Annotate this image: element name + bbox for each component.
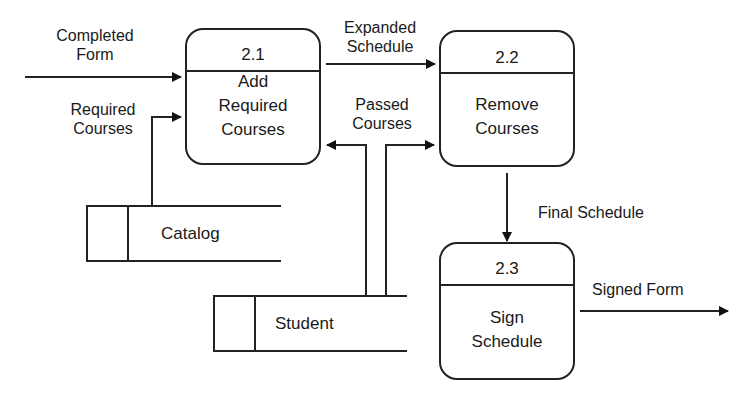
- arrow-passed-courses-left: [327, 145, 366, 295]
- label-line: Signed Form: [592, 280, 712, 299]
- name-line: Schedule: [441, 330, 573, 354]
- process-number: 2.2: [441, 48, 573, 68]
- label-final-schedule: Final Schedule: [538, 203, 678, 222]
- label-completed-form: Completed Form: [50, 26, 140, 64]
- label-line: Form: [50, 45, 140, 64]
- label-line: Passed: [332, 95, 432, 114]
- process-2-2[interactable]: 2.2 Remove Courses: [439, 30, 575, 167]
- name-line: Add: [187, 70, 319, 94]
- data-store-catalog[interactable]: Catalog: [86, 205, 281, 262]
- name-line: Courses: [187, 118, 319, 142]
- name-line: Remove: [441, 93, 573, 117]
- label-line: Final Schedule: [538, 203, 678, 222]
- label-line: Courses: [58, 119, 148, 138]
- data-store-name: Student: [275, 314, 334, 334]
- data-store-id-cell: [215, 297, 256, 350]
- process-name: Sign Schedule: [441, 306, 573, 354]
- data-store-student[interactable]: Student: [213, 295, 407, 352]
- label-signed-form: Signed Form: [592, 280, 712, 299]
- process-number: 2.3: [441, 259, 573, 279]
- process-divider: [441, 284, 573, 286]
- name-line: Required: [187, 94, 319, 118]
- process-2-3[interactable]: 2.3 Sign Schedule: [439, 242, 575, 380]
- label-passed-courses: Passed Courses: [332, 95, 432, 133]
- arrow-required-courses: [152, 117, 181, 205]
- data-store-id-cell: [88, 207, 129, 260]
- name-line: Sign: [441, 306, 573, 330]
- label-line: Schedule: [330, 37, 430, 56]
- process-name: Remove Courses: [441, 93, 573, 141]
- process-2-1[interactable]: 2.1 Add Required Courses: [185, 28, 321, 165]
- label-line: Expanded: [330, 18, 430, 37]
- arrow-passed-courses-right: [386, 145, 434, 295]
- label-line: Required: [58, 100, 148, 119]
- label-expanded-schedule: Expanded Schedule: [330, 18, 430, 56]
- label-required-courses: Required Courses: [58, 100, 148, 138]
- process-divider: [441, 72, 573, 74]
- label-line: Completed: [50, 26, 140, 45]
- process-number: 2.1: [187, 45, 319, 65]
- data-store-name: Catalog: [161, 224, 220, 244]
- process-name: Add Required Courses: [187, 70, 319, 142]
- name-line: Courses: [441, 117, 573, 141]
- label-line: Courses: [332, 114, 432, 133]
